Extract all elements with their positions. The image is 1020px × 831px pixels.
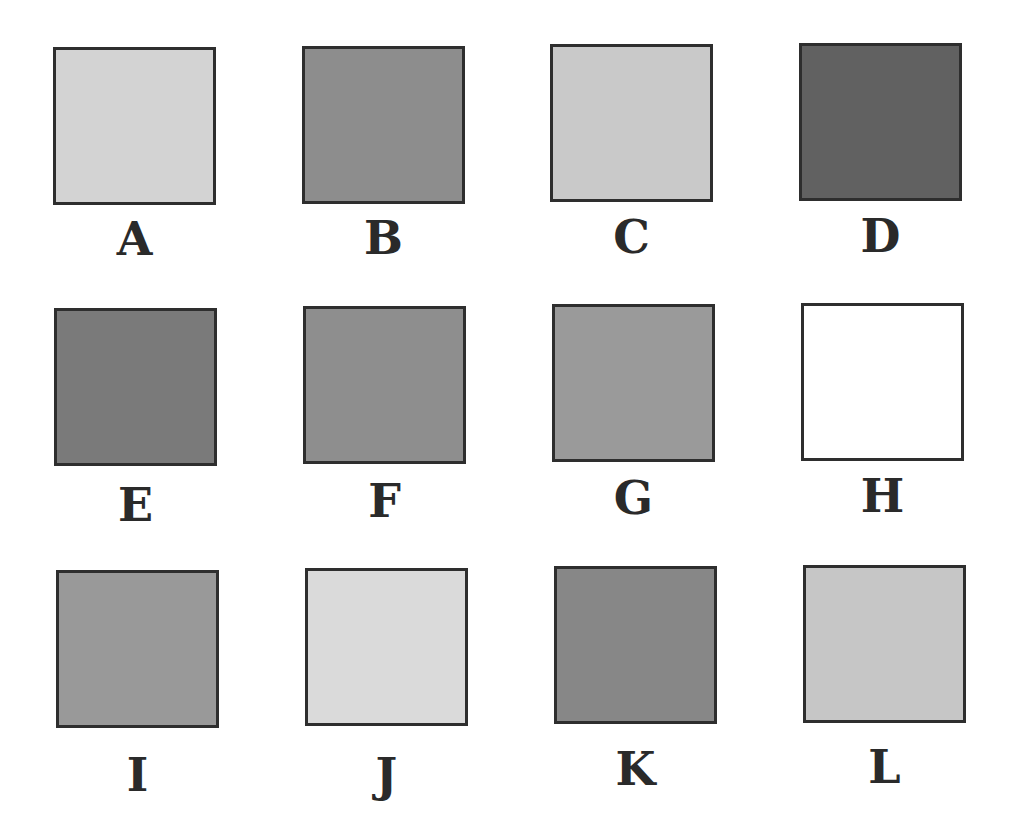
swatch-label-j: J <box>305 752 468 798</box>
swatch-label-f: F <box>303 478 466 524</box>
swatch-f <box>303 306 466 464</box>
swatch-label-c: C <box>550 214 713 260</box>
swatch-label-g: G <box>552 475 715 521</box>
swatch-g <box>552 304 715 462</box>
swatch-j <box>305 568 468 726</box>
swatch-label-a: A <box>53 216 216 262</box>
swatch-label-d: D <box>799 213 962 259</box>
swatch-l <box>803 565 966 723</box>
swatch-c <box>550 44 713 202</box>
swatch-h <box>801 303 964 461</box>
swatch-label-b: B <box>302 215 465 261</box>
swatch-label-l: L <box>803 744 966 790</box>
swatch-b <box>302 46 465 204</box>
swatch-i <box>56 570 219 728</box>
swatch-k <box>554 566 717 724</box>
swatch-e <box>54 308 217 466</box>
swatch-label-h: H <box>801 473 964 519</box>
swatch-label-i: I <box>56 752 219 798</box>
swatch-label-e: E <box>54 482 217 528</box>
swatch-a <box>53 47 216 205</box>
swatch-label-k: K <box>554 746 717 792</box>
swatch-d <box>799 43 962 201</box>
